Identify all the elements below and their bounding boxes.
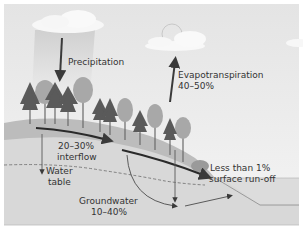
interflow-value: 20–30%: [58, 141, 94, 151]
interflow-label: interflow: [57, 152, 97, 162]
water-table-label-line1: Water: [46, 166, 73, 176]
groundwater-label: Groundwater: [79, 196, 138, 206]
runoff-value: Less than 1%: [210, 163, 270, 173]
diagram-illustration: [0, 0, 303, 229]
groundwater-value: 10–40%: [91, 207, 127, 217]
evapotranspiration-label: Evapotranspiration: [178, 70, 264, 80]
runoff-label: surface run-off: [209, 174, 275, 184]
water-cycle-diagram: Precipitation Evapotranspiration 40–50% …: [0, 0, 303, 229]
evapotranspiration-value: 40–50%: [178, 81, 214, 91]
precipitation-label: Precipitation: [68, 57, 124, 67]
water-table-label-line2: table: [48, 177, 71, 187]
